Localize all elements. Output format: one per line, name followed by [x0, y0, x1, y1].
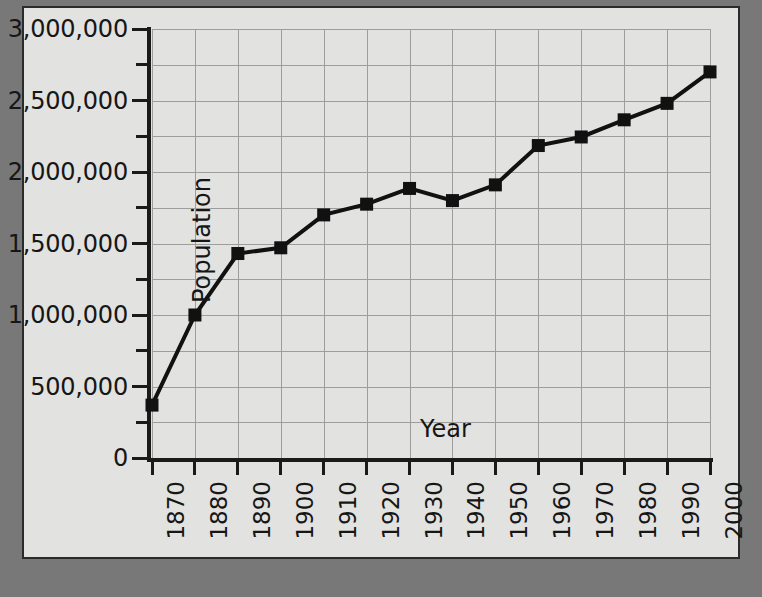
data-point-marker — [704, 65, 717, 78]
gridline-vertical — [710, 29, 711, 458]
x-tick — [193, 458, 196, 475]
x-tick-label: 1890 — [249, 481, 275, 540]
plot-area: 0500,0001,000,0001,500,0002,000,0002,500… — [152, 29, 710, 458]
x-tick — [322, 458, 325, 475]
data-point-marker — [661, 97, 674, 110]
x-tick-label: 1960 — [549, 481, 575, 540]
y-tick-major — [132, 457, 148, 460]
x-tick — [236, 458, 239, 475]
x-tick-label: 1990 — [678, 481, 704, 540]
y-tick-label: 2,500,000 — [8, 87, 128, 115]
y-axis-title: Population — [188, 177, 216, 303]
data-point-marker — [446, 194, 459, 207]
x-tick — [580, 458, 583, 475]
data-point-marker — [489, 178, 502, 191]
x-axis-title: Year — [420, 415, 471, 443]
x-tick — [709, 458, 712, 475]
chart-figure-panel: 0500,0001,000,0001,500,0002,000,0002,500… — [22, 6, 740, 559]
x-tick-label: 2000 — [721, 481, 747, 540]
y-tick-minor — [136, 349, 148, 352]
x-tick-label: 1940 — [463, 481, 489, 540]
x-tick — [408, 458, 411, 475]
population-line-series — [152, 29, 710, 458]
y-tick-major — [132, 314, 148, 317]
y-tick-label: 0 — [113, 444, 128, 472]
x-tick-label: 1970 — [592, 481, 618, 540]
data-point-marker — [188, 309, 201, 322]
y-tick-major — [132, 99, 148, 102]
y-tick-minor — [136, 421, 148, 424]
y-tick-minor — [136, 135, 148, 138]
x-tick-label: 1930 — [421, 481, 447, 540]
x-tick-label: 1910 — [335, 481, 361, 540]
x-tick — [623, 458, 626, 475]
y-tick-minor — [136, 63, 148, 66]
data-point-marker — [360, 198, 373, 211]
data-point-marker — [146, 399, 159, 412]
y-tick-major — [132, 171, 148, 174]
x-tick — [151, 458, 154, 475]
data-point-marker — [618, 113, 631, 126]
x-tick-label: 1900 — [292, 481, 318, 540]
x-tick-label: 1950 — [506, 481, 532, 540]
y-tick-label: 1,000,000 — [8, 301, 128, 329]
x-tick — [451, 458, 454, 475]
y-tick-minor — [136, 278, 148, 281]
y-tick-minor — [136, 206, 148, 209]
x-tick — [666, 458, 669, 475]
data-point-marker — [274, 241, 287, 254]
data-point-marker — [231, 247, 244, 260]
y-tick-label: 2,000,000 — [8, 158, 128, 186]
x-tick — [537, 458, 540, 475]
x-tick-label: 1880 — [206, 481, 232, 540]
data-point-marker — [403, 182, 416, 195]
x-tick-label: 1980 — [635, 481, 661, 540]
y-tick-label: 500,000 — [30, 373, 128, 401]
y-tick-major — [132, 242, 148, 245]
x-tick — [494, 458, 497, 475]
y-tick-major — [132, 385, 148, 388]
x-tick — [365, 458, 368, 475]
x-tick-label: 1920 — [378, 481, 404, 540]
data-point-marker — [317, 208, 330, 221]
y-tick-label: 3,000,000 — [8, 15, 128, 43]
x-tick-label: 1870 — [163, 481, 189, 540]
x-axis-line — [147, 458, 713, 462]
x-tick — [279, 458, 282, 475]
data-point-marker — [532, 139, 545, 152]
data-point-marker — [575, 130, 588, 143]
y-tick-major — [132, 28, 148, 31]
y-tick-label: 1,500,000 — [8, 230, 128, 258]
